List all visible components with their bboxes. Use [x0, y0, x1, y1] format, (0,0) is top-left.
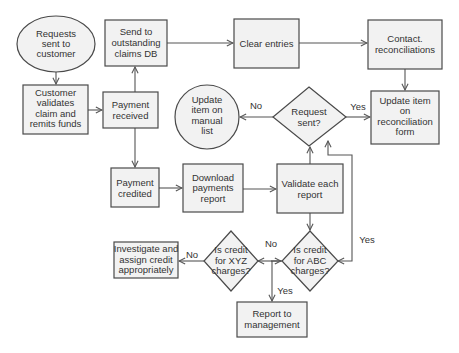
svg-text:credited: credited: [118, 188, 152, 199]
svg-text:Send to: Send to: [120, 26, 153, 37]
node-update-manual-list: Update item on manual list: [175, 85, 239, 149]
svg-text:Request: Request: [291, 106, 327, 117]
node-update-reconciliation-form: Update item on reconciliation form: [371, 91, 439, 144]
svg-text:form: form: [396, 126, 415, 137]
node-abc-decision: Is credit for ABC charges?: [282, 231, 338, 291]
node-payment-received: Payment received: [103, 92, 158, 128]
svg-text:Investigate and: Investigate and: [114, 243, 178, 254]
svg-text:Is credit: Is credit: [293, 244, 327, 255]
svg-text:validates: validates: [37, 97, 75, 108]
node-requests-sent: Requests sent to customer: [17, 16, 95, 72]
node-contact-reconciliations: Contact. reconciliations: [368, 20, 442, 69]
label-xyz-yes: Yes: [277, 285, 293, 296]
node-clear-entries: Clear entries: [234, 19, 299, 68]
flowchart: No Yes No Yes No Yes Requests sent to cu…: [0, 0, 459, 353]
node-download-report: Download payments report: [183, 164, 243, 212]
svg-text:appropriately: appropriately: [119, 264, 174, 275]
label-xyz-no: No: [186, 249, 198, 260]
svg-text:Contact.: Contact.: [387, 33, 422, 44]
label-abc-yes: Yes: [359, 234, 375, 245]
svg-text:charges?: charges?: [290, 265, 329, 276]
node-payment-credited: Payment credited: [111, 168, 159, 207]
node-report-management: Report to management: [237, 302, 307, 337]
svg-text:customer: customer: [36, 48, 75, 59]
svg-text:management: management: [244, 319, 300, 330]
label-request-no: No: [250, 100, 262, 111]
node-send-outstanding: Send to outstanding claims DB: [105, 20, 167, 66]
svg-text:report: report: [298, 189, 323, 200]
label-abc-no: No: [265, 238, 277, 249]
node-investigate: Investigate and assign credit appropriat…: [114, 242, 178, 278]
svg-text:Is credit: Is credit: [214, 244, 248, 255]
svg-text:Validate each: Validate each: [282, 178, 339, 189]
svg-text:item on: item on: [191, 104, 222, 115]
svg-text:Clear entries: Clear entries: [240, 38, 294, 49]
svg-text:reconciliations: reconciliations: [375, 44, 435, 55]
svg-text:received: received: [113, 110, 149, 121]
svg-text:charges?: charges?: [211, 265, 250, 276]
svg-text:sent?: sent?: [297, 117, 320, 128]
node-customer-validates: Customer validates claim and remits fund…: [23, 85, 88, 134]
svg-text:payments: payments: [192, 182, 233, 193]
svg-text:claims DB: claims DB: [115, 48, 158, 59]
node-xyz-decision: Is credit for XYZ charges?: [204, 231, 258, 291]
svg-text:list: list: [201, 125, 213, 136]
svg-text:outstanding: outstanding: [111, 37, 160, 48]
node-request-sent-decision: Request sent?: [273, 87, 346, 146]
svg-text:report: report: [201, 193, 226, 204]
svg-text:Payment: Payment: [116, 177, 154, 188]
svg-text:Payment: Payment: [112, 99, 150, 110]
node-validate-report: Validate each report: [277, 164, 343, 213]
svg-text:remits funds: remits funds: [30, 118, 82, 129]
label-request-yes: Yes: [350, 101, 366, 112]
svg-text:on: on: [400, 105, 411, 116]
svg-text:Report to: Report to: [252, 308, 291, 319]
